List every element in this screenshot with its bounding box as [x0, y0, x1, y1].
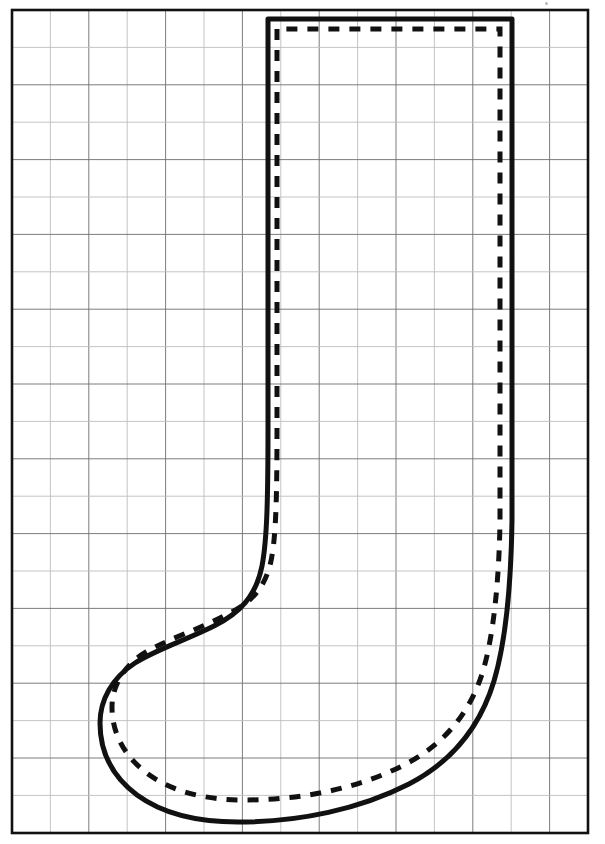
stocking-pattern-drawing	[0, 0, 605, 844]
scan-speck-artifact	[545, 2, 548, 5]
pattern-page	[0, 0, 605, 844]
